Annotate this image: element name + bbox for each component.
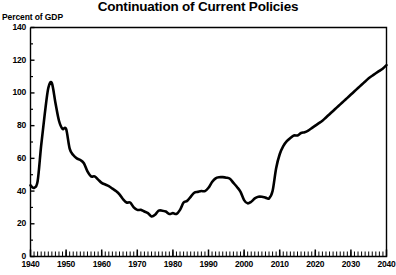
y-tick-label: 40 [0,187,26,196]
debt-series-line [31,65,387,216]
x-tick-label: 2000 [224,260,264,269]
x-tick-label: 1960 [82,260,122,269]
x-tick-label: 1980 [153,260,193,269]
x-tick-label: 2010 [260,260,300,269]
x-tick-label: 2030 [331,260,371,269]
x-tick-label: 1950 [46,260,86,269]
chart-figure: Continuation of Current Policies Percent… [0,0,396,275]
y-tick-label: 60 [0,154,26,163]
y-tick-label: 80 [0,121,26,130]
plot-area [0,0,396,275]
x-tick-label: 1990 [189,260,229,269]
y-tick-label: 140 [0,23,26,32]
y-tick-label: 20 [0,219,26,228]
axis-frame [31,28,387,257]
x-tick-label: 1970 [117,260,157,269]
x-tick-label: 2040 [367,260,396,269]
y-tick-label: 100 [0,88,26,97]
y-tick-label: 120 [0,56,26,65]
x-tick-label: 2020 [295,260,335,269]
x-tick-label: 1940 [11,260,51,269]
plot-border [31,28,387,257]
